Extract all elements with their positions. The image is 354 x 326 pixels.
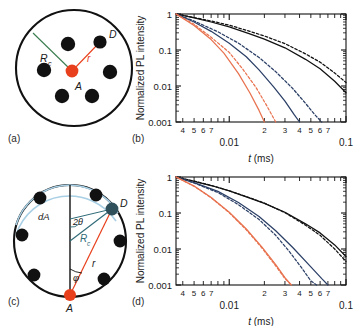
data-series-red-solid — [176, 14, 264, 122]
x-tick-label-minor: 5 — [192, 126, 197, 135]
x-tick-label-minor: 5 — [192, 289, 197, 298]
donor-dot-c — [106, 203, 119, 216]
y-tick-label: 0.001 — [148, 280, 172, 291]
x-tick-label-minor: 6 — [318, 289, 323, 298]
x-tick-label-minor: 2 — [262, 289, 267, 298]
data-series-red-dashed — [176, 14, 276, 122]
label-acceptor-a: A — [74, 80, 82, 92]
data-series-red-solid — [176, 177, 291, 285]
y-tick-label: 0.01 — [154, 81, 173, 92]
x-tick-label-minor: 4 — [297, 289, 302, 298]
y-tick-label: 0.1 — [159, 208, 172, 219]
panel-b-chart: 10.10.010.0010.010.14567234567t (ms)Norm… — [130, 0, 354, 163]
label-dA-c: dA — [38, 211, 50, 222]
data-series-black-dashed — [176, 177, 346, 261]
label-donor-c: D — [120, 197, 128, 209]
schematic-c-svg: dA 2θ R c r φ D A — [0, 163, 134, 326]
x-tick-label-minor: 7 — [326, 289, 331, 298]
x-tick-label-major: 0.1 — [339, 137, 353, 148]
data-series-black-solid — [176, 177, 346, 256]
panel-c-schematic: dA 2θ R c r φ D A (c) — [0, 163, 134, 326]
data-series-blue-solid — [176, 177, 328, 285]
x-tick-label-minor: 4 — [181, 289, 186, 298]
x-axis-title: t (ms) — [248, 316, 274, 326]
x-tick-label-minor: 7 — [209, 126, 214, 135]
x-tick-label-minor: 3 — [283, 289, 288, 298]
figure-container: D A r R c (a) 10.10.010.0010.010.1456723… — [0, 0, 354, 326]
label-rc-main: R — [40, 52, 48, 64]
x-tick-label-minor: 2 — [262, 126, 267, 135]
acceptor-dot-a — [66, 65, 79, 78]
x-tick-label-minor: 7 — [326, 126, 331, 135]
x-tick-label-major: 0.1 — [339, 300, 353, 311]
panel-label-b: (b) — [132, 133, 144, 144]
x-tick-label-minor: 6 — [318, 126, 323, 135]
x-tick-label-minor: 6 — [201, 289, 206, 298]
panel-label-c: (c) — [8, 296, 20, 307]
label-phi-c: φ — [73, 272, 79, 283]
label-acceptor-c: A — [65, 302, 73, 314]
y-axis-title: Normalized PL intensity — [135, 16, 146, 121]
data-series-blue-dashed — [176, 14, 322, 122]
x-tick-label-minor: 5 — [309, 126, 314, 135]
x-tick-label-minor: 3 — [283, 126, 288, 135]
y-tick-label: 0.001 — [148, 117, 172, 128]
panel-label-a: (a) — [8, 133, 20, 144]
x-tick-label-minor: 4 — [181, 126, 186, 135]
x-tick-label-major: 0.01 — [220, 300, 240, 311]
y-tick-label: 0.01 — [154, 244, 173, 255]
x-tick-label-major: 0.01 — [220, 137, 240, 148]
x-tick-label-minor: 5 — [309, 289, 314, 298]
x-tick-label-minor: 4 — [297, 126, 302, 135]
y-tick-label: 1 — [167, 9, 172, 20]
chart-d-svg: 10.10.010.0010.010.14567234567t (ms)Norm… — [130, 163, 354, 326]
chart-b-svg: 10.10.010.0010.010.14567234567t (ms)Norm… — [130, 0, 354, 163]
acceptor-dot-c — [64, 289, 76, 301]
panel-a-schematic: D A r R c (a) — [0, 0, 134, 163]
x-tick-label-minor: 7 — [209, 289, 214, 298]
label-theta-c: 2θ — [72, 217, 83, 227]
data-series-blue-dashed — [176, 177, 317, 285]
y-tick-label: 0.1 — [159, 45, 172, 56]
panel-label-d: (d) — [132, 296, 144, 307]
panel-d-chart: 10.10.010.0010.010.14567234567t (ms)Norm… — [130, 163, 354, 326]
x-tick-label-minor: 6 — [201, 126, 206, 135]
plot-frame — [176, 177, 346, 285]
y-axis-title: Normalized PL intensity — [135, 179, 146, 284]
data-series-red-dashed — [176, 177, 291, 285]
y-tick-label: 1 — [167, 172, 172, 183]
label-rc-sub: c — [48, 60, 52, 67]
label-donor-a: D — [109, 28, 117, 40]
